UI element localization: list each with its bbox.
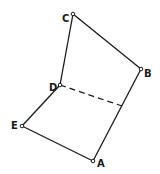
label-a: A — [97, 158, 105, 169]
point-d-marker — [58, 83, 62, 87]
point-a-marker — [91, 159, 95, 163]
label-e: E — [11, 120, 18, 131]
edge-cb — [73, 14, 141, 69]
edge-ba — [93, 69, 141, 161]
point-c-marker — [71, 12, 75, 16]
label-c: C — [62, 13, 69, 24]
hinged-quadrilateral-diagram: A B C D E — [0, 0, 160, 174]
label-d: D — [49, 82, 57, 93]
point-e-marker — [20, 124, 24, 128]
edge-dc — [60, 14, 73, 85]
label-b: B — [144, 68, 152, 79]
dashed-fold-line — [60, 85, 122, 106]
edge-ae — [22, 126, 93, 161]
point-b-marker — [139, 67, 143, 71]
